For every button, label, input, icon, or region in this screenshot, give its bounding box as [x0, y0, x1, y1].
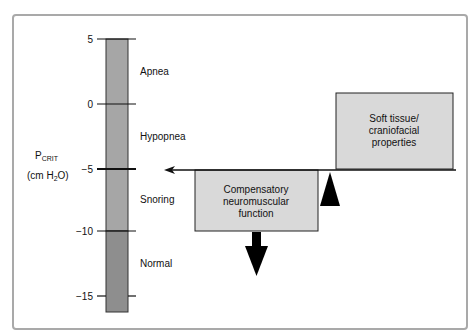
compensatory-line3: function: [238, 208, 273, 219]
compensatory-line2: neuromuscular: [223, 196, 290, 207]
axis-title: PCRIT: [35, 150, 59, 162]
zone-label-snoring: Snoring: [140, 194, 174, 205]
axis-unit-prefix: (cm H: [27, 170, 54, 181]
pcrit-bar-upper: [106, 39, 128, 231]
zone-label-normal: Normal: [140, 258, 172, 269]
pcrit-diagram: 5 0 −5 −10 −15 PCRIT (cm H2O) Apnea Hypo…: [0, 0, 475, 336]
soft-tissue-line3: properties: [372, 137, 416, 148]
soft-tissue-line1: Soft tissue/: [369, 113, 419, 124]
tick-label: 5: [87, 34, 93, 45]
down-arrow-shaft: [252, 232, 261, 246]
tick-label: −10: [76, 226, 93, 237]
axis-unit-suffix: O): [58, 170, 69, 181]
tick-label: −15: [76, 291, 93, 302]
compensatory-line1: Compensatory: [223, 184, 288, 195]
fulcrum-triangle-icon: [320, 172, 340, 206]
soft-tissue-line2: craniofacial: [369, 125, 420, 136]
tick-label: 0: [87, 99, 93, 110]
arrow-down-icon: [245, 246, 268, 276]
tick-label: −5: [82, 164, 94, 175]
axis-unit: (cm H2O): [27, 170, 69, 182]
axis-title-sub: CRIT: [42, 155, 59, 162]
pcrit-bar-lower: [106, 231, 128, 312]
zone-label-hypopnea: Hypopnea: [140, 131, 186, 142]
zone-label-apnea: Apnea: [140, 66, 169, 77]
